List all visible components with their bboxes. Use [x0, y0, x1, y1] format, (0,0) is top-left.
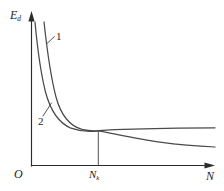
- y-axis-label: Ed: [10, 9, 21, 21]
- y-axis-label-subscript: d: [17, 14, 21, 23]
- origin-label: O: [14, 168, 23, 180]
- curve-2-label: 2: [38, 116, 44, 127]
- figure-canvas: [0, 0, 224, 191]
- x-axis-label: N: [206, 170, 214, 182]
- curve-1-label: 1: [56, 31, 62, 42]
- y-axis-arrowhead: [28, 11, 34, 22]
- figure-container: Ed N O Nk 1 2: [0, 0, 224, 191]
- x-tick-label-nk: Nk: [89, 169, 99, 180]
- curve-1-leader-line: [47, 37, 55, 44]
- x-axis-arrowhead: [205, 162, 216, 168]
- x-tick-label-subscript: k: [96, 174, 99, 181]
- curve-1-path: [44, 22, 215, 131]
- curve-2-leader-line: [43, 103, 52, 116]
